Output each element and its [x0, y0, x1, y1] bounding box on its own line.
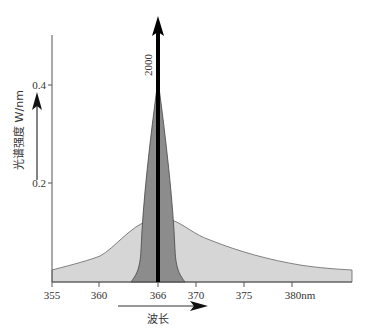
y-tick-label: 0.2: [32, 177, 46, 189]
y-axis-label: 光谱强度 W/nm: [12, 90, 26, 170]
spectrum-chart: 0.4 0.2 355 360 366 370 375 380nm 2000 光…: [0, 0, 366, 330]
x-tick-label: 360: [91, 289, 108, 301]
x-tick-label: 355: [44, 289, 61, 301]
x-ticks: 355 360 366 370 375 380nm: [44, 282, 316, 301]
x-tick-label: 370: [188, 289, 205, 301]
x-tick-label: 380nm: [285, 289, 316, 301]
peak-annotation: 2000: [142, 54, 154, 77]
x-tick-label: 366: [150, 289, 167, 301]
y-tick-label: 0.4: [32, 79, 46, 91]
y-ticks: 0.4 0.2: [32, 79, 52, 189]
x-tick-label: 375: [236, 289, 253, 301]
x-axis-label: 波长: [147, 313, 169, 326]
broad-spectrum-area: [52, 219, 352, 283]
y-axis-arrow: [32, 92, 42, 180]
x-axis-arrow: [118, 301, 208, 311]
